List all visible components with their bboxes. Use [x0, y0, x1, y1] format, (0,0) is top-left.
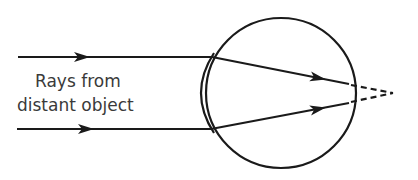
- refracted-ray-upper: [212, 57, 349, 84]
- eyeball-outline: [206, 18, 356, 168]
- rays-label-line1: Rays from: [35, 73, 121, 90]
- rays-label-line2: distant object: [17, 97, 134, 114]
- refracted-ray-lower: [211, 103, 349, 129]
- dashed-extension-upper: [351, 85, 393, 93]
- dashed-extension-lower: [351, 93, 393, 102]
